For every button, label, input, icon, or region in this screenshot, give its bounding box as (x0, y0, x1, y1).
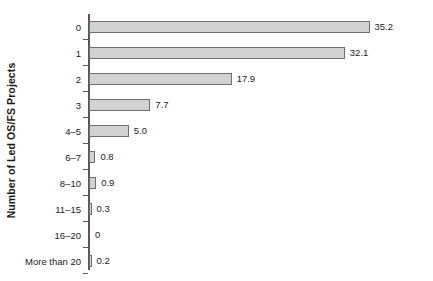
bar-row: 16–200 (0, 222, 433, 248)
category-label: 0 (8, 14, 88, 40)
bar (89, 73, 232, 85)
bar-and-value: 17.9 (89, 66, 255, 92)
bar-and-value: 0.9 (89, 170, 114, 196)
bar-row: 8–100.9 (0, 170, 433, 196)
bar-and-value: 7.7 (89, 92, 169, 118)
bar (89, 255, 92, 267)
bar (89, 21, 370, 33)
bar-chart: Number of Led OS/FS Projects 035.2132.12… (0, 0, 433, 281)
bar-value-label: 17.9 (237, 74, 256, 84)
bar-row: 132.1 (0, 40, 433, 66)
category-label: 8–10 (8, 170, 88, 196)
category-label: 4–5 (8, 118, 88, 144)
plot-area: 035.2132.1217.937.74–55.06–70.88–100.911… (0, 0, 433, 281)
bar (89, 99, 150, 111)
bar-value-label: 5.0 (134, 126, 147, 136)
bar-and-value: 0 (89, 222, 100, 248)
bar-row: 11–150.3 (0, 196, 433, 222)
bar-value-label: 0 (95, 230, 100, 240)
bar-and-value: 5.0 (89, 118, 147, 144)
bar-row: 4–55.0 (0, 118, 433, 144)
category-label: 3 (8, 92, 88, 118)
bar-row: 217.9 (0, 66, 433, 92)
bar (89, 47, 345, 59)
bar-value-label: 0.2 (97, 256, 110, 266)
bar-value-label: 0.9 (101, 178, 114, 188)
bar-row: 035.2 (0, 14, 433, 40)
bar-value-label: 35.2 (375, 22, 394, 32)
bar-and-value: 0.2 (89, 248, 110, 274)
category-label: More than 20 (0, 248, 88, 274)
category-label: 6–7 (8, 144, 88, 170)
category-label: 1 (8, 40, 88, 66)
bar (89, 203, 92, 215)
category-label: 2 (8, 66, 88, 92)
bar-and-value: 0.3 (89, 196, 110, 222)
category-label: 11–15 (0, 196, 88, 222)
bar-and-value: 35.2 (89, 14, 393, 40)
bar (89, 125, 129, 137)
bar-and-value: 0.8 (89, 144, 114, 170)
bar-value-label: 0.8 (100, 152, 113, 162)
bar-and-value: 32.1 (89, 40, 368, 66)
bar-value-label: 0.3 (97, 204, 110, 214)
bar-row: 37.7 (0, 92, 433, 118)
bar (89, 177, 96, 189)
bar (89, 151, 95, 163)
bar-row: More than 200.2 (0, 248, 433, 274)
bar-value-label: 32.1 (350, 48, 369, 58)
bar-value-label: 7.7 (155, 100, 168, 110)
category-label: 16–20 (0, 222, 88, 248)
bar-row: 6–70.8 (0, 144, 433, 170)
